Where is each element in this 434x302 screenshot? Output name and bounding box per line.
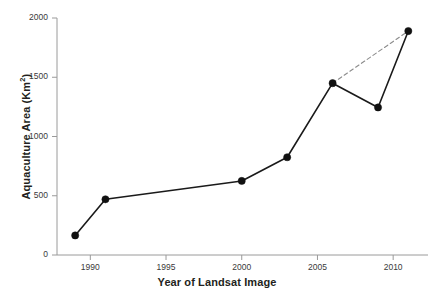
line-chart-plot xyxy=(0,0,434,302)
data-point-marker[interactable] xyxy=(102,196,109,203)
x-axis-title: Year of Landsat Image xyxy=(0,276,434,288)
data-line xyxy=(75,31,408,235)
x-axis-ticks xyxy=(90,255,393,260)
data-point-marker[interactable] xyxy=(238,177,245,184)
trend-line-dashed xyxy=(333,31,409,83)
y-tick-label: 1500 xyxy=(12,71,48,81)
y-tick-label: 2000 xyxy=(12,12,48,22)
x-tick-label: 2010 xyxy=(373,262,413,272)
x-tick-label: 1990 xyxy=(70,262,110,272)
data-point-marker[interactable] xyxy=(405,27,412,34)
data-point-marker[interactable] xyxy=(329,80,336,87)
chart-axes xyxy=(52,18,428,260)
data-point-marker[interactable] xyxy=(72,232,79,239)
y-tick-label: 500 xyxy=(12,190,48,200)
y-tick-label: 1000 xyxy=(12,131,48,141)
data-point-marker[interactable] xyxy=(284,154,291,161)
x-tick-label: 2005 xyxy=(297,262,337,272)
x-tick-label: 1995 xyxy=(146,262,186,272)
x-tick-label: 2000 xyxy=(222,262,262,272)
y-axis-ticks xyxy=(52,18,57,255)
y-axis-title-base: Aquaculture Area (Km xyxy=(20,82,32,200)
data-point-marker[interactable] xyxy=(374,104,381,111)
chart-container: Aquaculture Area (Km2) Year of Landsat I… xyxy=(0,0,434,302)
y-tick-label: 0 xyxy=(12,249,48,259)
chart-series-group xyxy=(72,27,412,239)
